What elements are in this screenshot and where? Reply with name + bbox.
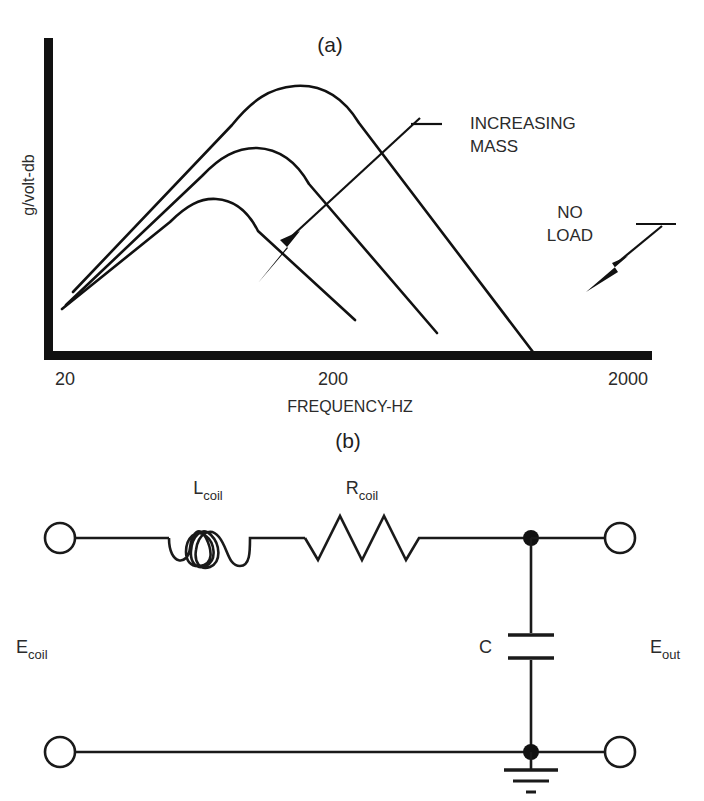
panel-b-circuit: (b) (0, 420, 704, 801)
capacitor-label: C (479, 637, 492, 657)
circuit-svg: (b) (0, 420, 704, 801)
input-terminal-top (45, 523, 75, 553)
input-terminal-bottom (45, 737, 75, 767)
x-axis-bar (44, 351, 652, 360)
x-tick-label-2000: 2000 (608, 369, 648, 389)
resistor-label-sub: coil (359, 488, 379, 503)
inductor-label-sub: coil (203, 488, 223, 503)
output-voltage-label-base: E (650, 637, 662, 657)
inductor-label-base: L (193, 478, 203, 498)
panel-a-response-chart: (a) g/volt-db 20 200 2000 FREQUENCY-HZ (0, 0, 704, 420)
x-tick-label-20: 20 (55, 369, 75, 389)
x-tick-label-200: 200 (318, 369, 348, 389)
no-load-arrowhead (586, 256, 628, 292)
y-axis-bar (44, 38, 53, 360)
increasing-mass-label-line1: INCREASING (470, 114, 576, 133)
resistor-zigzag (305, 516, 528, 560)
panel-a-caption: (a) (317, 33, 343, 56)
panel-b-caption: (b) (335, 429, 361, 452)
figure-root: (a) g/volt-db 20 200 2000 FREQUENCY-HZ (0, 0, 704, 801)
inductor-coil (169, 531, 305, 568)
output-terminal-top (605, 523, 635, 553)
output-terminal-bottom (605, 737, 635, 767)
response-chart-svg: (a) g/volt-db 20 200 2000 FREQUENCY-HZ (0, 0, 704, 420)
y-axis-title: g/volt-db (20, 154, 37, 215)
curve-no-load (73, 86, 533, 352)
no-load-label-line1: NO (557, 203, 583, 222)
no-load-label-line2: LOAD (547, 226, 593, 245)
x-axis-title: FREQUENCY-HZ (287, 398, 413, 415)
increasing-mass-arrowhead (258, 231, 300, 283)
no-load-leader-diagonal (617, 226, 662, 263)
resistor-label: Rcoil (346, 478, 379, 503)
inductor-label: Lcoil (193, 478, 223, 503)
input-voltage-label-base: E (16, 637, 28, 657)
input-voltage-label-sub: coil (28, 647, 48, 662)
resistor-label-base: R (346, 478, 359, 498)
output-voltage-label: Eout (650, 637, 680, 662)
output-voltage-label-sub: out (662, 647, 680, 662)
input-voltage-label: Ecoil (16, 637, 48, 662)
increasing-mass-label-line2: MASS (470, 137, 518, 156)
